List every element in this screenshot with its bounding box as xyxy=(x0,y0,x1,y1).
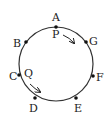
point-c-label: C xyxy=(9,70,17,83)
mover-q-arrow-icon xyxy=(30,84,40,92)
point-e-label: E xyxy=(74,102,82,115)
points-group: AGFEDCB xyxy=(9,11,104,115)
point-d-dot xyxy=(33,96,37,100)
movers-group: PQ xyxy=(24,28,74,92)
mover-q-label: Q xyxy=(24,67,33,80)
mover-p-label: P xyxy=(52,28,60,41)
point-b-label: B xyxy=(13,37,21,50)
mover-p-arrow-icon xyxy=(63,35,74,43)
circle-diagram: AGFEDCB PQ xyxy=(0,0,111,119)
point-g-dot xyxy=(84,40,88,44)
point-g-label: G xyxy=(89,35,98,48)
point-b-dot xyxy=(24,40,28,44)
point-f-label: F xyxy=(96,71,104,84)
point-e-dot xyxy=(74,96,78,100)
point-d-label: D xyxy=(29,102,38,115)
point-a-label: A xyxy=(51,11,61,24)
point-c-dot xyxy=(17,73,21,77)
point-f-dot xyxy=(91,74,95,78)
